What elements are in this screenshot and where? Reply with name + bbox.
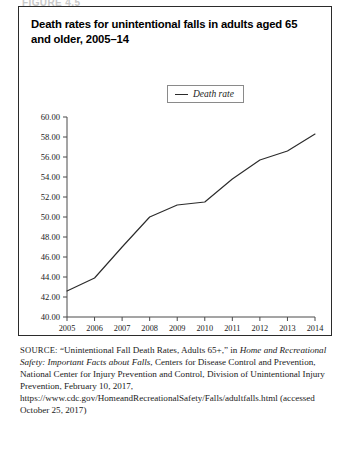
x-axis-tick-label: 2006 <box>86 324 103 333</box>
figure-container: Death rates for unintentional falls in a… <box>18 6 332 336</box>
x-axis-ticks: 2005200620072008200920102011201220132014 <box>59 317 324 333</box>
y-axis-tick-label: 54.00 <box>41 172 60 182</box>
death-rate-line <box>67 134 315 291</box>
y-axis-tick-label: 50.00 <box>41 212 60 222</box>
x-axis-tick-label: 2007 <box>114 324 131 333</box>
y-axis-tick-label: 56.00 <box>41 152 60 162</box>
y-axis-tick-label: 58.00 <box>41 132 60 142</box>
x-axis-tick-label: 2011 <box>224 324 240 333</box>
y-axis-tick-label: 52.00 <box>41 192 60 202</box>
x-axis-tick-label: 2013 <box>279 324 296 333</box>
y-axis-tick-label: 44.00 <box>41 272 60 282</box>
y-axis-tick-label: 46.00 <box>41 252 60 262</box>
source-text-part1: “Unintentional Fall Death Rates, Adults … <box>58 345 240 355</box>
x-axis-tick-label: 2012 <box>252 324 269 333</box>
x-axis-tick-label: 2008 <box>141 324 158 333</box>
y-axis-tick-label: 40.00 <box>41 312 60 322</box>
y-axis-tick-label: 48.00 <box>41 232 60 242</box>
plot-area: 60.0058.0056.0054.0052.0050.0048.0046.00… <box>19 7 333 337</box>
x-axis-tick-label: 2010 <box>196 324 213 333</box>
source-label: SOURCE: <box>20 345 58 355</box>
source-note: SOURCE: “Unintentional Fall Death Rates,… <box>20 344 332 417</box>
y-axis-ticks: 60.0058.0056.0054.0052.0050.0048.0046.00… <box>41 112 67 322</box>
x-axis-tick-label: 2014 <box>307 324 324 333</box>
y-axis-tick-label: 42.00 <box>41 292 60 302</box>
x-axis-tick-label: 2005 <box>59 324 76 333</box>
line-chart-svg: 60.0058.0056.0054.0052.0050.0048.0046.00… <box>19 7 333 337</box>
x-axis-tick-label: 2009 <box>169 324 186 333</box>
y-axis-tick-label: 60.00 <box>41 112 60 122</box>
